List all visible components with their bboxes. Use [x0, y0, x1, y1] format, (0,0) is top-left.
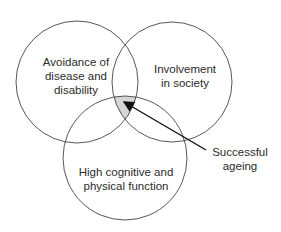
arrow-icon: [124, 102, 206, 150]
successful-ageing-intersection: [63, 96, 187, 220]
label-avoidance-of-disease: Avoidance of disease and disability: [43, 55, 109, 97]
label-involvement-in-society: Involvement in society: [154, 62, 216, 90]
venn-diagram: [0, 0, 281, 232]
label-cognitive-physical-function: High cognitive and physical function: [79, 165, 174, 193]
label-successful-ageing: Successful ageing: [212, 145, 268, 173]
